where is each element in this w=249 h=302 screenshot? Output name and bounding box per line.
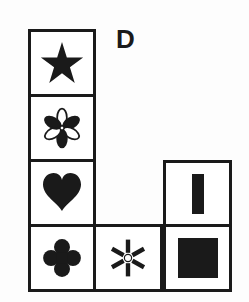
flower-icon [40,106,84,150]
figure-label: D [116,26,135,52]
cell-bar [163,160,232,227]
cell-flower [28,94,96,162]
cell-heart [28,159,96,227]
cell-asterisk [93,224,163,292]
star-icon [40,42,84,84]
cell-square [163,224,232,292]
asterisk-icon [108,238,148,278]
vertical-bar-icon [192,174,204,214]
heart-icon [43,173,81,213]
cell-star [28,29,96,97]
square-icon [178,238,218,278]
clover-icon [41,237,83,279]
cell-clover [28,224,96,292]
